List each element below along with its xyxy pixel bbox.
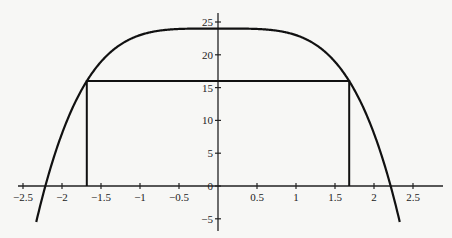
x-tick-label: −0.5 [169, 191, 189, 203]
y-tick-label: 25 [202, 16, 214, 28]
x-tick-label: 2.5 [406, 191, 420, 203]
x-tick-label: 1.5 [328, 191, 342, 203]
chart: −2.5−2−1.5−1−0.50.511.522.5−50510152025 [0, 0, 452, 238]
x-tick-label: 0.5 [250, 191, 264, 203]
ticks: −2.5−2−1.5−1−0.50.511.522.5−50510152025 [13, 16, 420, 225]
y-tick-label: 0 [208, 180, 214, 192]
y-tick-label: 10 [202, 114, 214, 126]
y-tick-label: 5 [208, 147, 214, 159]
x-tick-label: −2 [56, 191, 68, 203]
x-tick-label: −1.5 [91, 191, 111, 203]
axes [18, 13, 443, 231]
x-tick-label: −2.5 [13, 191, 33, 203]
y-tick-label: 20 [202, 49, 214, 61]
x-tick-label: 2 [371, 191, 377, 203]
y-tick-label: 15 [202, 82, 214, 94]
x-tick-label: −1 [134, 191, 146, 203]
y-tick-label: −5 [201, 213, 213, 225]
x-tick-label: 1 [293, 191, 299, 203]
